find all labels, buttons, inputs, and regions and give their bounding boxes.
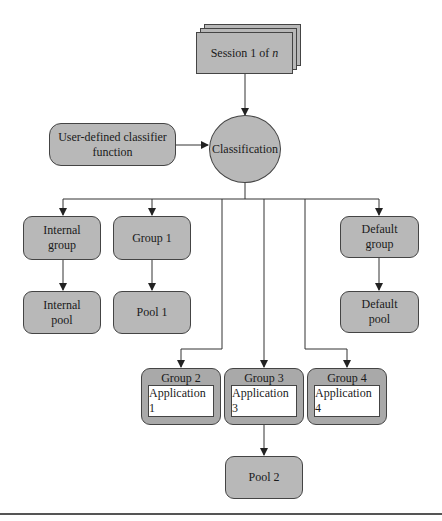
classification-flow-diagram: Session 1 of n User-defined classifier f… (0, 0, 442, 521)
classifier-function-label-line1: User-defined classifier (58, 130, 167, 145)
connector-lines (0, 0, 442, 521)
group-1-node: Group 1 (113, 216, 191, 260)
default-pool-label-line2: pool (362, 312, 398, 327)
session-label: Session 1 of n (211, 46, 279, 61)
internal-group-label-line1: Internal (43, 223, 80, 238)
pool-1-node: Pool 1 (113, 291, 191, 334)
group-3-label: Group 3 (225, 371, 303, 385)
default-group-node: Default group (340, 216, 419, 258)
classification-node: Classification (209, 115, 281, 183)
application-4-label: Application 4 (315, 386, 379, 416)
application-1-box: Application 1 (148, 385, 214, 417)
session-card: Session 1 of n (196, 32, 293, 74)
application-3-box: Application 3 (231, 385, 297, 417)
application-3-label: Application 3 (232, 386, 296, 416)
internal-group-node: Internal group (23, 216, 101, 260)
application-1-label: Application 1 (149, 386, 213, 416)
internal-pool-label-line2: pool (43, 313, 80, 328)
internal-pool-node: Internal pool (23, 291, 101, 334)
default-pool-node: Default pool (340, 291, 419, 333)
default-group-label-line2: group (362, 237, 398, 252)
group-4-label: Group 4 (308, 371, 386, 385)
pool-2-label: Pool 2 (248, 470, 279, 485)
bottom-rule (0, 513, 442, 515)
group-2-label: Group 2 (142, 371, 220, 385)
default-group-label-line1: Default (362, 222, 398, 237)
internal-pool-label-line1: Internal (43, 298, 80, 313)
group-3-node: Group 3 Application 3 (224, 368, 304, 425)
group-2-node: Group 2 Application 1 (141, 368, 221, 425)
classifier-function-node: User-defined classifier function (49, 123, 176, 166)
internal-group-label-line2: group (43, 238, 80, 253)
group-4-node: Group 4 Application 4 (307, 368, 387, 425)
pool-1-label: Pool 1 (136, 305, 167, 320)
group-1-label: Group 1 (132, 231, 172, 246)
classifier-function-label-line2: function (58, 145, 167, 160)
pool-2-node: Pool 2 (225, 456, 303, 499)
application-4-box: Application 4 (314, 385, 380, 417)
classification-label: Classification (212, 142, 278, 157)
default-pool-label-line1: Default (362, 297, 398, 312)
